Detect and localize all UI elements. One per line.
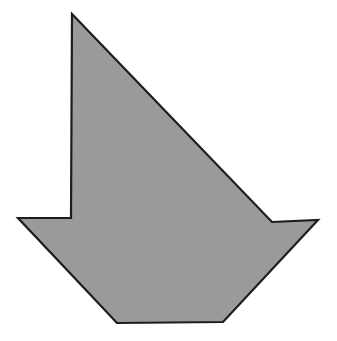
arrow-polygon-svg [0,0,337,341]
image-canvas [0,0,337,341]
